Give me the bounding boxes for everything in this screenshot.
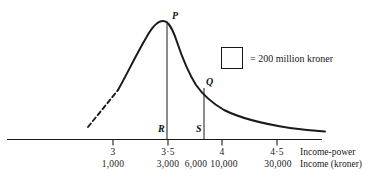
x-tick-label-income-10000: 10,000 xyxy=(203,159,245,169)
x-tick-label-income-1000: 1,000 xyxy=(93,159,133,169)
x-tick-label-income-power-3: 3 xyxy=(98,147,128,157)
curve-point-label-Q: Q xyxy=(206,76,213,87)
x-axis-caption-income-kroner: Income (kroner) xyxy=(300,159,362,169)
curve-point-label-P: P xyxy=(172,10,178,21)
curve-dashed-tail xyxy=(88,90,118,127)
chart-figure: P Q R S = 200 million kroner 3 3·5 4 4·5… xyxy=(0,0,383,187)
axis-point-label-S: S xyxy=(196,123,202,134)
distribution-curve xyxy=(118,21,325,132)
x-tick-label-income-power-3-5: 3·5 xyxy=(153,147,183,157)
legend-value-text: 200 million kroner xyxy=(258,53,333,64)
x-tick-label-income-power-4-5: 4·5 xyxy=(262,147,292,157)
x-axis-ticks xyxy=(113,140,277,146)
legend: = 200 million kroner xyxy=(221,47,333,69)
legend-square-icon xyxy=(221,47,243,69)
x-tick-label-income-30000: 30,000 xyxy=(257,159,299,169)
x-tick-label-income-power-4: 4 xyxy=(207,147,237,157)
x-axis-caption-income-power: Income-power xyxy=(300,147,355,157)
legend-equals-symbol: = xyxy=(250,53,256,64)
axis-point-label-R: R xyxy=(158,123,165,134)
legend-label: = 200 million kroner xyxy=(250,53,333,64)
